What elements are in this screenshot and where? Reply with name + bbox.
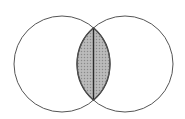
venn-diagram: [0, 0, 185, 119]
venn-diagram-canvas: [0, 0, 185, 119]
